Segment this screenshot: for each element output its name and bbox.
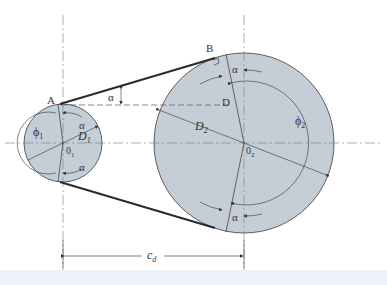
label-point-d: D [222, 96, 230, 108]
label-alpha-small-bottom: α [79, 161, 85, 173]
label-point-b: B [206, 42, 213, 54]
label-alpha-belt: α [108, 91, 114, 103]
belt-drive-diagram: A B D α α α α α ϕ1 ϕ2 D1 D2 01 02 cd [0, 0, 387, 285]
label-point-a: A [47, 94, 55, 106]
label-alpha-large-bottom: α [232, 211, 238, 223]
label-alpha-large-top: α [232, 63, 238, 75]
